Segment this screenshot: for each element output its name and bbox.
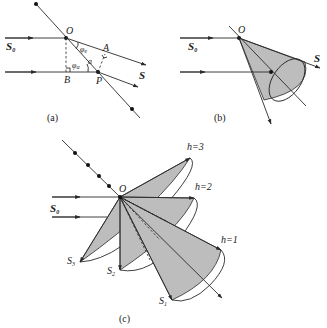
atom-dot (130, 107, 134, 111)
label-S2: S2 (107, 265, 115, 277)
right-angle-A (102, 55, 107, 58)
label-A: A (102, 42, 110, 53)
atom-dot (34, 2, 38, 6)
label-O: O (238, 24, 245, 35)
caption-b: (b) (214, 112, 226, 124)
atom-dot-O (118, 195, 122, 199)
panel-c: O S0 h=3 h=2 h=1 S3 S2 S1 (c) (50, 140, 238, 325)
atom-dot (73, 151, 77, 155)
atom-dot (97, 174, 101, 178)
caption-a: (a) (47, 112, 58, 124)
panel-b: O S S0 (b) (180, 24, 320, 124)
label-O: O (119, 183, 126, 194)
atom-dot (86, 163, 90, 167)
atom-row-line (62, 140, 120, 197)
label-h3: h=3 (187, 141, 204, 152)
diffracted-beam-P (98, 72, 138, 87)
angle-arc-top (76, 42, 78, 49)
caption-c: (c) (119, 313, 130, 325)
right-angle-B (66, 68, 70, 72)
label-S3: S3 (67, 255, 75, 267)
label-phi-e: φe (80, 45, 87, 54)
label-S: S (314, 52, 320, 64)
label-S1: S1 (159, 295, 167, 307)
label-S0: S0 (188, 40, 197, 53)
label-h2: h=2 (195, 181, 212, 192)
label-S: S (139, 69, 145, 81)
label-phi-alpha: φα (72, 61, 80, 70)
label-S0: S0 (50, 202, 59, 215)
label-O: O (66, 25, 73, 36)
perpendicular-PA (98, 54, 105, 72)
label-P: P (95, 75, 102, 86)
label-S0: S0 (6, 40, 15, 53)
panel-a: O A B P S S0 φe φα a (a) (5, 2, 146, 124)
atom-dot (107, 184, 111, 188)
label-a: a (88, 57, 92, 66)
diffraction-cone-diagram: O A B P S S0 φe φα a (a) O S S0 (b) (0, 0, 327, 328)
label-h1: h=1 (221, 234, 238, 245)
label-B: B (64, 74, 70, 85)
